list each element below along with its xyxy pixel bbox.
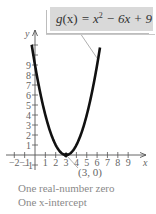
y-tick-label: 7 [26,80,31,91]
y-tick-label: 2 [26,130,31,141]
equation-rhs-b: − 6x + 9 [103,11,152,26]
parabola-path [32,45,100,155]
caption-intercept-count: One x-intercept [18,196,87,208]
x-tick-label: 1 [43,157,48,168]
x-tick-label: 2 [53,157,58,168]
y-tick-label: −1 [22,160,33,171]
y-tick-label: 4 [26,110,31,121]
equation-arg: (x) [63,11,78,26]
axes: −2−1123456789−1123456789xy [6,28,148,171]
x-tick-label: −2 [9,157,20,168]
y-tick-label: 8 [26,70,31,81]
y-tick-label: 1 [26,140,31,151]
equation-rhs-a: = x [78,11,99,26]
x-tick-label: 9 [126,157,131,168]
equation-leader-line [80,33,97,58]
x-tick-label: 7 [105,157,110,168]
x-tick-label: 3 [64,157,69,168]
y-tick-label: 6 [26,90,31,101]
equation-label: g(x) = x2 − 6x + 9 [56,11,152,27]
y-axis-label: y [24,28,30,39]
parabola-curve [32,45,100,157]
x-tick-label: 8 [115,157,120,168]
y-tick-label: 9 [26,60,31,71]
caption-zero-count: One real-number zero [18,182,115,194]
y-tick-label: 3 [26,120,31,131]
vertex-label: (3, 0) [78,166,102,179]
y-tick-label: 5 [26,100,31,111]
x-axis-label: x [142,157,148,168]
